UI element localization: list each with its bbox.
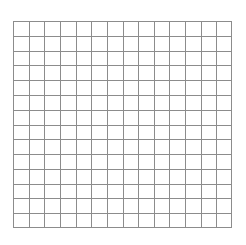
grid-lines <box>13 21 232 228</box>
grid-canvas <box>0 0 246 245</box>
grid-surface[interactable] <box>13 21 232 228</box>
